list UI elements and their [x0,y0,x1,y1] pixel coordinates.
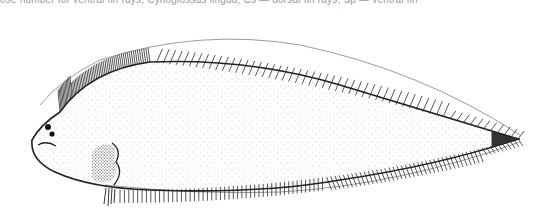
eye-lower [49,131,54,136]
gill-cover [92,144,117,182]
eye-upper [45,124,51,130]
caudal-fin [492,132,520,147]
ventral-fin [104,188,115,206]
fish-illustration [0,0,547,222]
